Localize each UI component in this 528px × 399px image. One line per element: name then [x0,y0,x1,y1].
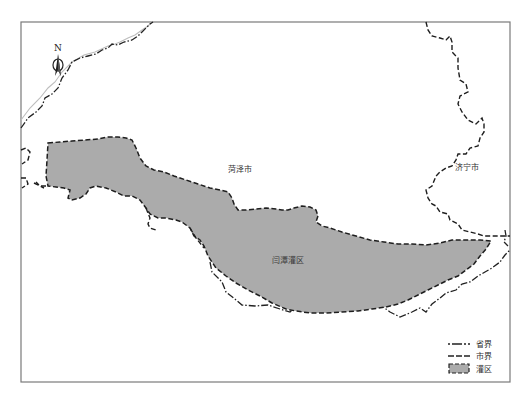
irrigation-district-polygon [46,137,491,313]
legend-label-city: 市界 [476,351,492,361]
province-boundary-ghost [21,22,152,120]
legend-item-district: 灌区 [449,364,492,374]
province-boundary-east [504,230,508,246]
province-boundary-nw [21,22,153,128]
north-label: N [54,43,62,53]
city-boundary-fragment-left-2 [21,178,44,188]
city-boundary-fragment-left [21,148,30,164]
north-arrow-icon: N [53,43,63,76]
legend-label-district: 灌区 [476,364,492,374]
map-frame [21,22,510,382]
label-jining: 济宁市 [455,162,479,172]
city-boundary-jining [426,22,510,236]
legend-label-province: 省界 [476,339,492,349]
legend-item-province: 省界 [448,339,492,349]
legend-item-city: 市界 [448,351,492,361]
label-irrigation-district: 闫潭灌区 [272,255,304,265]
legend: 省界 市界 灌区 [448,339,492,374]
label-heze: 菏泽市 [228,164,252,174]
map-canvas: 菏泽市 济宁市 闫潭灌区 N 省界 市界 灌区 [0,0,528,399]
